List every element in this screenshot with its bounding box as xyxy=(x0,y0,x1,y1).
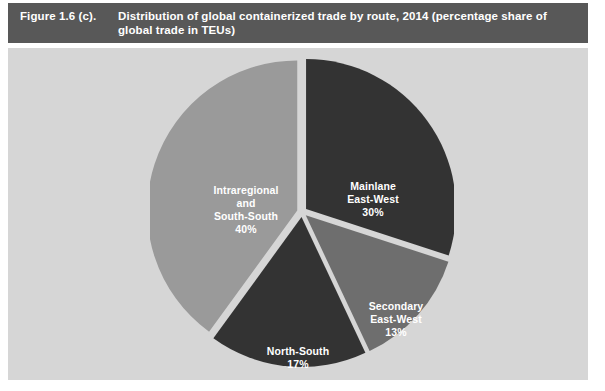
pie-label-mainlane-east-west: Mainlane East-West 30% xyxy=(313,180,433,219)
pie-label-north-south-line1: North-South xyxy=(233,345,363,358)
pie-label-mainlane-value: 30% xyxy=(313,206,433,219)
pie-label-mainlane-line1: Mainlane xyxy=(313,180,433,193)
pie-label-mainlane-line2: East-West xyxy=(313,193,433,206)
pie-label-north-south-value: 17% xyxy=(233,358,363,371)
pie-label-secondary-line1: Secondary xyxy=(336,300,456,313)
pie-label-intraregional-value: 40% xyxy=(176,223,316,236)
pie-label-intraregional-line3: South-South xyxy=(176,210,316,223)
pie-label-secondary-value: 13% xyxy=(336,326,456,339)
figure-caption-bar: Figure 1.6 (c). Distribution of global c… xyxy=(8,3,588,43)
pie-label-north-south: North-South 17% xyxy=(233,345,363,371)
pie-label-secondary-east-west: Secondary East-West 13% xyxy=(336,300,456,339)
figure-title-label: Distribution of global containerized tra… xyxy=(118,9,578,37)
pie-label-intraregional-line1: Intraregional xyxy=(176,184,316,197)
pie-label-secondary-line2: East-West xyxy=(336,313,456,326)
pie-label-intraregional-line2: and xyxy=(176,197,316,210)
figure-number-label: Figure 1.6 (c). xyxy=(20,9,118,23)
pie-label-intraregional-south-south: Intraregional and South-South 40% xyxy=(176,184,316,236)
chart-panel: Mainlane East-West 30% Secondary East-We… xyxy=(8,48,588,380)
